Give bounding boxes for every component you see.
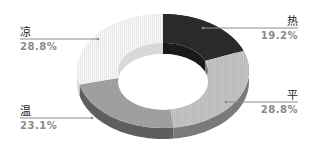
label-pct-1: 28.8% xyxy=(261,104,298,115)
label-pct-0: 19.2% xyxy=(261,30,298,41)
donut-slices xyxy=(77,14,249,128)
label-name-3: 凉 xyxy=(20,25,31,39)
leader-dot-3 xyxy=(97,38,100,41)
label-pct-2: 23.1% xyxy=(20,120,57,131)
donut-chart: 热19.2%平28.8%温23.1%凉28.8% xyxy=(0,0,313,156)
leader-dot-2 xyxy=(91,117,94,120)
leader-dot-1 xyxy=(225,101,228,104)
donut-hole xyxy=(118,54,208,110)
label-name-0: 热 xyxy=(287,15,298,28)
label-pct-3: 28.8% xyxy=(20,41,57,52)
label-name-2: 温 xyxy=(20,105,31,118)
label-name-1: 平 xyxy=(287,89,298,102)
leader-dot-0 xyxy=(202,27,205,30)
